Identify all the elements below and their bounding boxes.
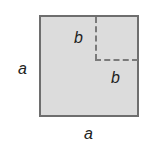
outer-square bbox=[39, 15, 139, 117]
label-a-bottom: a bbox=[84, 126, 93, 142]
inner-square-horizontal-dashed-edge bbox=[95, 59, 138, 61]
label-b-right: b bbox=[111, 70, 120, 86]
inner-square-vertical-dashed-edge bbox=[95, 17, 97, 60]
label-b-top: b bbox=[74, 30, 83, 46]
label-a-left: a bbox=[18, 61, 27, 77]
